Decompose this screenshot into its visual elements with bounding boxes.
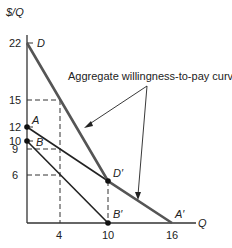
axes [27, 35, 196, 223]
svg-text:B: B [36, 136, 43, 148]
svg-text:15: 15 [9, 94, 21, 106]
svg-text:Aggregate willingness-to-pay c: Aggregate willingness-to-pay curve [68, 70, 232, 82]
svg-text:$/Q: $/Q [5, 6, 24, 18]
svg-text:10: 10 [102, 229, 114, 241]
svg-text:22: 22 [9, 37, 21, 49]
svg-text:D′: D′ [113, 167, 124, 179]
chart: $/Q 2215 1210 96 41016 DA BD′ B′A′ Q Agg… [0, 0, 232, 248]
svg-text:16: 16 [166, 229, 178, 241]
svg-text:12: 12 [9, 121, 21, 133]
svg-text:A: A [31, 114, 39, 126]
svg-text:B′: B′ [113, 208, 123, 220]
svg-text:A′: A′ [174, 208, 185, 220]
svg-text:9: 9 [12, 143, 18, 155]
svg-text:6: 6 [12, 169, 18, 181]
svg-text:Q: Q [198, 217, 207, 229]
svg-text:4: 4 [56, 229, 62, 241]
svg-text:D: D [37, 37, 45, 49]
